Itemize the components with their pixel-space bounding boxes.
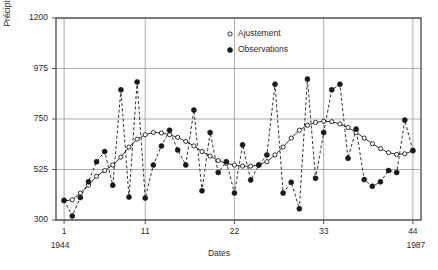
legend-label-observations: Observations — [238, 44, 288, 54]
data-point-observations — [167, 128, 172, 133]
data-point-observations — [386, 168, 391, 173]
data-point-ajustement — [338, 122, 342, 126]
data-point-ajustement — [94, 174, 98, 178]
data-point-observations — [86, 179, 91, 184]
data-point-ajustement — [281, 145, 285, 149]
x-tick-label: 1 — [44, 226, 84, 236]
data-point-observations — [313, 176, 318, 181]
precipitation-chart: Précipitations (mm) Dates Ajustement Obs… — [0, 0, 438, 270]
data-point-observations — [102, 149, 107, 154]
data-point-observations — [127, 195, 132, 200]
data-point-observations — [183, 163, 188, 168]
data-point-ajustement — [346, 125, 350, 129]
series-line-ajustement — [64, 121, 413, 201]
legend-label-ajustement: Ajustement — [238, 28, 281, 38]
data-point-observations — [224, 159, 229, 164]
data-point-ajustement — [70, 198, 74, 202]
data-point-observations — [402, 118, 407, 123]
data-point-ajustement — [216, 158, 220, 162]
data-point-observations — [354, 127, 359, 132]
data-point-observations — [232, 191, 237, 196]
data-point-ajustement — [167, 133, 171, 137]
data-point-ajustement — [249, 164, 253, 168]
data-point-ajustement — [78, 191, 82, 195]
data-point-observations — [151, 163, 156, 168]
data-point-observations — [159, 143, 164, 148]
data-point-observations — [281, 191, 286, 196]
data-point-ajustement — [232, 163, 236, 167]
data-point-observations — [118, 87, 123, 92]
data-point-ajustement — [111, 163, 115, 167]
legend-marker-observations — [228, 48, 233, 53]
data-point-observations — [110, 183, 115, 188]
data-point-ajustement — [240, 164, 244, 168]
data-point-observations — [175, 147, 180, 152]
data-point-observations — [135, 79, 140, 84]
data-point-observations — [94, 159, 99, 164]
data-point-ajustement — [297, 128, 301, 132]
data-point-ajustement — [305, 123, 309, 127]
data-point-ajustement — [322, 119, 326, 123]
x-axis-start-year: 1944 — [37, 240, 83, 250]
data-point-ajustement — [176, 135, 180, 139]
data-point-ajustement — [386, 151, 390, 155]
data-point-ajustement — [330, 120, 334, 124]
data-point-observations — [378, 179, 383, 184]
data-point-ajustement — [119, 155, 123, 159]
x-tick-label: 33 — [304, 226, 344, 236]
data-point-observations — [321, 130, 326, 135]
data-point-ajustement — [127, 145, 131, 149]
data-point-observations — [305, 77, 310, 82]
data-point-ajustement — [395, 152, 399, 156]
data-point-observations — [337, 82, 342, 87]
data-point-ajustement — [403, 152, 407, 156]
data-point-observations — [200, 188, 205, 193]
x-tick-label: 44 — [393, 226, 433, 236]
x-axis-end-year: 1987 — [393, 240, 438, 250]
data-point-observations — [329, 87, 334, 92]
data-point-ajustement — [200, 149, 204, 153]
data-point-observations — [410, 148, 415, 153]
data-point-observations — [256, 163, 261, 168]
data-point-observations — [191, 108, 196, 113]
data-point-ajustement — [289, 136, 293, 140]
data-point-observations — [273, 82, 278, 87]
data-point-ajustement — [362, 136, 366, 140]
y-tick-label: 750 — [8, 113, 48, 123]
data-point-observations — [248, 178, 253, 183]
data-point-observations — [216, 170, 221, 175]
data-point-observations — [143, 196, 148, 201]
y-tick-label: 975 — [8, 63, 48, 73]
data-point-ajustement — [135, 137, 139, 141]
data-point-ajustement — [208, 154, 212, 158]
legend-marker-ajustement — [228, 32, 232, 36]
data-point-ajustement — [313, 120, 317, 124]
data-point-observations — [370, 184, 375, 189]
series-line-observations — [64, 79, 413, 216]
y-tick-label: 300 — [8, 214, 48, 224]
x-tick-label: 11 — [125, 226, 165, 236]
data-point-observations — [78, 195, 83, 200]
data-point-observations — [208, 130, 213, 135]
data-point-ajustement — [159, 131, 163, 135]
data-point-observations — [394, 170, 399, 175]
data-point-ajustement — [378, 147, 382, 151]
data-point-observations — [264, 152, 269, 157]
y-tick-label: 1200 — [8, 12, 48, 22]
data-point-ajustement — [265, 160, 269, 164]
data-point-ajustement — [184, 139, 188, 143]
data-point-observations — [346, 156, 351, 161]
data-point-observations — [362, 177, 367, 182]
data-point-ajustement — [103, 169, 107, 173]
data-point-observations — [289, 180, 294, 185]
data-point-ajustement — [370, 142, 374, 146]
data-point-ajustement — [143, 133, 147, 137]
data-point-ajustement — [192, 144, 196, 148]
data-point-observations — [297, 206, 302, 211]
data-point-ajustement — [151, 130, 155, 134]
data-point-observations — [70, 213, 75, 218]
data-point-observations — [240, 142, 245, 147]
y-tick-label: 525 — [8, 164, 48, 174]
x-tick-label: 22 — [214, 226, 254, 236]
data-point-observations — [62, 198, 67, 203]
